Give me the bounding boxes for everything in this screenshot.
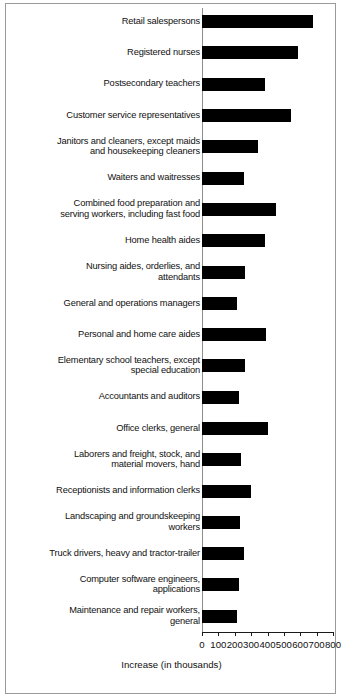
bar-track	[202, 256, 334, 287]
category-label: Maintenance and repair workers, general	[10, 605, 200, 626]
category-label: Receptionists and information clerks	[10, 485, 200, 496]
x-axis-tick	[317, 632, 318, 636]
chart-row: Maintenance and repair workers, general	[6, 601, 337, 632]
bar-track	[202, 319, 334, 350]
bar	[202, 297, 237, 310]
chart-row: Elementary school teachers, except speci…	[6, 350, 337, 381]
bar-track	[202, 69, 334, 100]
category-label: Customer service representatives	[10, 110, 200, 121]
category-label: Personal and home care aides	[10, 329, 200, 340]
chart-row: General and operations managers	[6, 288, 337, 319]
bar	[202, 422, 268, 435]
x-axis	[202, 632, 334, 638]
bar	[202, 516, 240, 529]
chart-row: Nursing aides, orderlies, and attendants	[6, 256, 337, 287]
chart-row: Home health aides	[6, 225, 337, 256]
category-label: Janitors and cleaners, except maids and …	[10, 136, 200, 157]
chart-rows: Retail salespersonsRegistered nursesPost…	[6, 6, 337, 632]
chart-row: Landscaping and groundskeeping workers	[6, 507, 337, 538]
bar-track	[202, 601, 334, 632]
x-axis-tick	[218, 632, 219, 636]
x-axis-tick	[202, 632, 203, 636]
bar-chart: Retail salespersonsRegistered nursesPost…	[6, 4, 337, 695]
bar	[202, 46, 298, 59]
chart-row: Accountants and auditors	[6, 382, 337, 413]
bar	[202, 15, 313, 28]
category-label: Retail salespersons	[10, 16, 200, 27]
category-label: Computer software engineers, application…	[10, 574, 200, 595]
x-axis-tick	[235, 632, 236, 636]
category-label: Registered nurses	[10, 47, 200, 58]
category-label: Office clerks, general	[10, 423, 200, 434]
chart-row: Combined food preparation and serving wo…	[6, 194, 337, 225]
bar	[202, 391, 239, 404]
bar-track	[202, 225, 334, 256]
x-axis-tick	[333, 632, 334, 636]
bar	[202, 172, 244, 185]
chart-frame: Retail salespersonsRegistered nursesPost…	[5, 3, 336, 694]
bar-track	[202, 538, 334, 569]
bar-track	[202, 131, 334, 162]
x-axis-tick	[284, 632, 285, 636]
x-axis-tick-labels: 0100200300400500600700800	[196, 639, 341, 653]
bar	[202, 203, 276, 216]
bar	[202, 328, 266, 341]
bar	[202, 140, 258, 153]
chart-row: Postsecondary teachers	[6, 69, 337, 100]
x-axis-tick	[300, 632, 301, 636]
chart-row: Registered nurses	[6, 37, 337, 68]
category-label: Home health aides	[10, 235, 200, 246]
bar-track	[202, 569, 334, 600]
chart-row: Retail salespersons	[6, 6, 337, 37]
bar	[202, 234, 265, 247]
bar-track	[202, 413, 334, 444]
chart-row: Waiters and waitresses	[6, 162, 337, 193]
category-label: General and operations managers	[10, 298, 200, 309]
x-axis-tick	[268, 632, 269, 636]
category-label: Landscaping and groundskeeping workers	[10, 511, 200, 532]
bar-track	[202, 194, 334, 225]
bar-track	[202, 288, 334, 319]
bar	[202, 547, 244, 560]
category-label: Accountants and auditors	[10, 391, 200, 402]
bar-track	[202, 507, 334, 538]
bar-track	[202, 382, 334, 413]
bar	[202, 109, 291, 122]
chart-row: Office clerks, general	[6, 413, 337, 444]
category-label: Elementary school teachers, except speci…	[10, 355, 200, 376]
x-axis-tick	[251, 632, 252, 636]
bar	[202, 610, 237, 623]
bar-track	[202, 37, 334, 68]
category-label: Waiters and waitresses	[10, 172, 200, 183]
category-label: Laborers and freight, stock, and materia…	[10, 449, 200, 470]
bar	[202, 485, 251, 498]
bar-track	[202, 162, 334, 193]
bar-track	[202, 350, 334, 381]
bar-track	[202, 444, 334, 475]
chart-row: Janitors and cleaners, except maids and …	[6, 131, 337, 162]
category-label: Postsecondary teachers	[10, 78, 200, 89]
bar	[202, 359, 245, 372]
chart-row: Truck drivers, heavy and tractor-trailer	[6, 538, 337, 569]
category-label: Truck drivers, heavy and tractor-trailer	[10, 548, 200, 559]
x-axis-title: Increase (in thousands)	[6, 659, 337, 670]
x-axis-tick-label: 800	[320, 639, 346, 651]
bar-track	[202, 475, 334, 506]
bar	[202, 78, 265, 91]
bar	[202, 453, 241, 466]
chart-row: Personal and home care aides	[6, 319, 337, 350]
chart-row: Customer service representatives	[6, 100, 337, 131]
category-label: Combined food preparation and serving wo…	[10, 198, 200, 219]
bar-track	[202, 6, 334, 37]
bar	[202, 266, 245, 279]
chart-row: Computer software engineers, application…	[6, 569, 337, 600]
chart-row: Laborers and freight, stock, and materia…	[6, 444, 337, 475]
category-label: Nursing aides, orderlies, and attendants	[10, 261, 200, 282]
bar	[202, 578, 239, 591]
chart-row: Receptionists and information clerks	[6, 475, 337, 506]
bar-track	[202, 100, 334, 131]
